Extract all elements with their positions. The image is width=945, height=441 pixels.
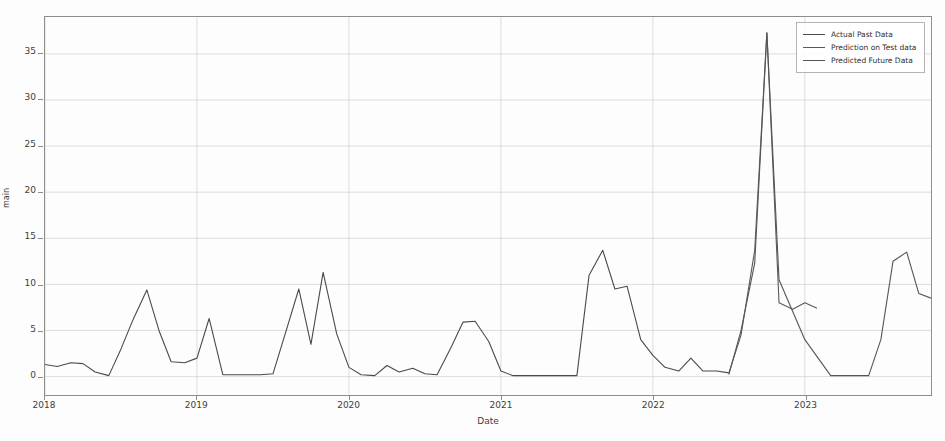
- series-line-0: [45, 250, 729, 375]
- legend-swatch-icon: [803, 47, 825, 48]
- x-tick-label: 2022: [642, 400, 665, 410]
- x-axis-title: Date: [477, 416, 499, 426]
- x-tick-label: 2020: [337, 400, 360, 410]
- x-tick-mark: [196, 396, 197, 400]
- legend-label: Predicted Future Data: [831, 56, 913, 65]
- y-tick-mark: [38, 99, 43, 100]
- data-series-lines: [45, 17, 931, 395]
- chart-figure: main Date 05101520253035 201820192020202…: [0, 0, 945, 441]
- legend-label: Actual Past Data: [831, 30, 893, 39]
- x-tick-label: 2023: [794, 400, 817, 410]
- chart-legend: Actual Past DataPrediction on Test dataP…: [796, 22, 925, 73]
- plot-area: [44, 16, 932, 396]
- y-tick-mark: [38, 285, 43, 286]
- x-tick-label: 2019: [185, 400, 208, 410]
- legend-item-2: Predicted Future Data: [803, 54, 916, 67]
- y-tick-mark: [38, 377, 43, 378]
- y-tick-mark: [38, 53, 43, 54]
- x-tick-mark: [349, 396, 350, 400]
- x-tick-label: 2018: [33, 400, 56, 410]
- legend-swatch-icon: [803, 34, 825, 35]
- x-tick-mark: [806, 396, 807, 400]
- x-tick-mark: [653, 396, 654, 400]
- y-tick-mark: [38, 331, 43, 332]
- x-tick-mark: [501, 396, 502, 400]
- x-tick-label: 2021: [489, 400, 512, 410]
- y-tick-mark: [38, 146, 43, 147]
- series-line-1: [729, 33, 817, 373]
- legend-label: Prediction on Test data: [831, 43, 916, 52]
- y-tick-mark: [38, 238, 43, 239]
- legend-item-1: Prediction on Test data: [803, 41, 916, 54]
- legend-swatch-icon: [803, 60, 825, 61]
- y-tick-mark: [38, 192, 43, 193]
- y-axis-title: main: [2, 188, 11, 208]
- x-tick-mark: [44, 396, 45, 400]
- series-line-2: [729, 33, 931, 376]
- legend-item-0: Actual Past Data: [803, 28, 916, 41]
